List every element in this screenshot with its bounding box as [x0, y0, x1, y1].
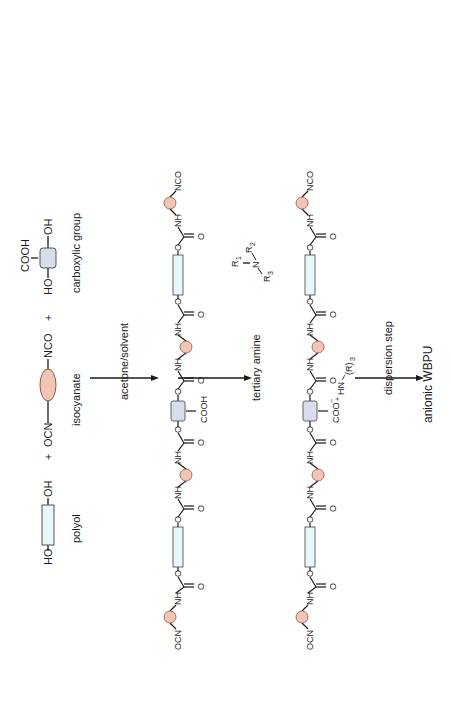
- svg-text:NCO: NCO: [173, 171, 183, 191]
- arrow-head-1: [151, 375, 159, 381]
- svg-text:O: O: [173, 516, 183, 523]
- isocyanate-unit-icon: [312, 469, 324, 481]
- svg-text:O: O: [305, 426, 315, 433]
- isocyanate-unit-icon: [164, 197, 176, 209]
- carboxylic-label: carboxylic group: [70, 213, 82, 293]
- svg-text:O: O: [305, 516, 315, 523]
- step-label-acetone: acetone/solvent: [118, 323, 130, 400]
- svg-text:NH: NH: [173, 592, 183, 605]
- svg-text:O: O: [173, 426, 183, 433]
- svg-text:OCN: OCN: [305, 630, 315, 650]
- svg-text:O: O: [173, 298, 183, 305]
- svg-text:O: O: [305, 298, 315, 305]
- isocyanate-unit-icon: [312, 341, 324, 353]
- svg-text:O: O: [328, 583, 338, 590]
- svg-text:O: O: [196, 377, 206, 384]
- polyol-label: polyol: [70, 514, 82, 543]
- wbpu-synthesis-diagram: HO OH + OCN NCO + HO OH COOH polyol isoc…: [0, 0, 451, 723]
- carboxylic-ho: HO: [42, 278, 54, 295]
- step-label-tertiary-amine: tertiary amine: [250, 334, 262, 401]
- svg-text:NH: NH: [173, 358, 183, 371]
- step-label-dispersion: dispersion step: [382, 321, 394, 395]
- isocyanate-unit-icon: [180, 341, 192, 353]
- svg-text:O: O: [196, 311, 206, 318]
- polyol-segment-icon: [305, 527, 315, 567]
- svg-text:O: O: [173, 570, 183, 577]
- svg-text:NH: NH: [173, 214, 183, 227]
- svg-text:NH: NH: [305, 451, 315, 464]
- svg-text:O: O: [328, 439, 338, 446]
- svg-text:NH: NH: [173, 323, 183, 336]
- plus-sign-1: +: [42, 454, 54, 460]
- polyol-segment-icon: [42, 505, 54, 545]
- svg-text:O: O: [196, 439, 206, 446]
- svg-text:3: 3: [267, 271, 274, 275]
- neutralized-chain: OCN NH O O O O NH NH O O COO − + HN (R) …: [296, 171, 356, 650]
- svg-text:R: R: [230, 260, 240, 267]
- isocyanate-unit-icon: [180, 469, 192, 481]
- svg-text:O: O: [305, 570, 315, 577]
- isocyanate-unit-icon: [40, 369, 56, 401]
- carboxylic-unit-icon: [40, 248, 56, 268]
- svg-text:NH: NH: [173, 451, 183, 464]
- carboxylate-unit-icon: [303, 401, 317, 421]
- product-label: anionic WBPU: [421, 346, 435, 423]
- polyol-segment-icon: [173, 527, 183, 567]
- svg-text:3: 3: [349, 357, 356, 361]
- polyol-segment-icon: [173, 255, 183, 295]
- svg-text:OCN: OCN: [173, 630, 183, 650]
- svg-text:O: O: [305, 388, 315, 395]
- svg-text:+: +: [334, 397, 341, 401]
- svg-text:O: O: [173, 244, 183, 251]
- svg-text:NH: NH: [305, 486, 315, 499]
- svg-text:R: R: [262, 275, 272, 282]
- reaction-scheme: HO OH + OCN NCO + HO OH COOH polyol isoc…: [0, 0, 451, 723]
- isocyanate-nco: NCO: [42, 333, 54, 358]
- tertiary-amine-structure: R 1 N R 2 R 3: [230, 242, 274, 282]
- svg-text:O: O: [328, 377, 338, 384]
- isocyanate-unit-icon: [296, 611, 308, 623]
- svg-text:O: O: [196, 233, 206, 240]
- svg-text:NH: NH: [305, 358, 315, 371]
- svg-text:O: O: [328, 233, 338, 240]
- isocyanate-unit-icon: [296, 197, 308, 209]
- polyol-ho: HO: [42, 548, 54, 565]
- svg-text:(R): (R): [344, 363, 354, 376]
- svg-text:R: R: [244, 246, 254, 253]
- isocyanate-unit-icon: [164, 611, 176, 623]
- svg-text:O: O: [328, 505, 338, 512]
- svg-text:NH: NH: [173, 486, 183, 499]
- svg-text:O: O: [305, 244, 315, 251]
- svg-text:2: 2: [249, 242, 256, 246]
- svg-text:NH: NH: [305, 592, 315, 605]
- prepolymer-chain: OCN NH O O O O NH NH O O COOH O O NH NH …: [164, 171, 209, 650]
- carboxylic-unit-icon: [171, 401, 185, 421]
- svg-text:N: N: [251, 262, 261, 269]
- polyol-segment-icon: [305, 255, 315, 295]
- carboxylic-oh: OH: [42, 218, 54, 235]
- svg-text:NH: NH: [305, 214, 315, 227]
- svg-text:O: O: [196, 505, 206, 512]
- svg-text:COOH: COOH: [199, 396, 209, 423]
- polyol-oh: OH: [42, 480, 54, 497]
- svg-text:O: O: [328, 311, 338, 318]
- plus-sign-2: +: [42, 315, 54, 321]
- svg-text:NH: NH: [305, 323, 315, 336]
- carboxylic-cooh: COOH: [19, 239, 31, 272]
- svg-text:NCO: NCO: [305, 171, 315, 191]
- svg-text:1: 1: [235, 256, 242, 260]
- isocyanate-ocn: OCN: [42, 423, 54, 448]
- svg-text:O: O: [196, 583, 206, 590]
- svg-text:COO: COO: [331, 402, 341, 423]
- svg-text:O: O: [173, 388, 183, 395]
- isocyanate-label: isocyanate: [70, 373, 82, 426]
